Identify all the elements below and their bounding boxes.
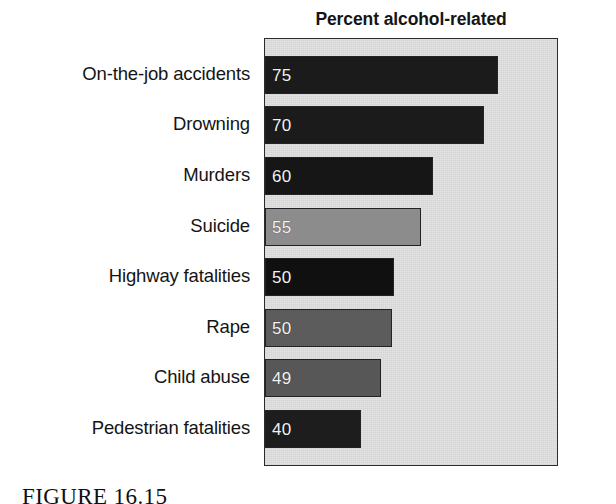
bar-drowning: 70 [265, 106, 484, 144]
bar-pedestrian-fatalities: 40 [265, 410, 361, 448]
axis-label-highway-fatalities: Highway fatalities [0, 257, 256, 295]
bar-value-label: 60 [272, 168, 291, 185]
axis-label-on-the-job-accidents: On-the-job accidents [0, 55, 256, 93]
bar-on-the-job-accidents: 75 [265, 56, 498, 94]
axis-label-suicide: Suicide [0, 207, 256, 245]
plot-area: 7570605550504940 [264, 38, 558, 466]
axis-label-child-abuse: Child abuse [0, 358, 256, 396]
bar-value-label: 75 [272, 67, 291, 84]
axis-label-pedestrian-fatalities: Pedestrian fatalities [0, 409, 256, 447]
bar-value-label: 55 [272, 219, 291, 236]
bar-value-label: 40 [272, 421, 291, 438]
chart-title: Percent alcohol-related [264, 9, 558, 30]
bar-murders: 60 [265, 157, 433, 195]
axis-label-murders: Murders [0, 156, 256, 194]
bar-value-label: 49 [272, 370, 291, 387]
bar-value-label: 70 [272, 117, 291, 134]
axis-label-rape: Rape [0, 308, 256, 346]
figure-root: Percent alcohol-related On-the-job accid… [0, 0, 616, 504]
bar-child-abuse: 49 [265, 359, 381, 397]
bar-value-label: 50 [272, 269, 291, 286]
bar-suicide: 55 [265, 208, 421, 246]
figure-caption: FIGURE 16.15 [22, 484, 167, 504]
axis-label-drowning: Drowning [0, 105, 256, 143]
bar-highway-fatalities: 50 [265, 258, 394, 296]
bar-value-label: 50 [272, 320, 291, 337]
bar-rape: 50 [265, 309, 392, 347]
